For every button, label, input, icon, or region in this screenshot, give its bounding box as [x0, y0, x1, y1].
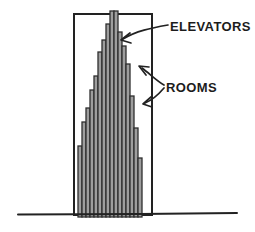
elevators-label: ELEVATORS	[170, 19, 251, 34]
rooms-label: ROOMS	[166, 80, 217, 95]
figure-svg: ELEVATORS ROOMS	[0, 0, 255, 232]
elevator-bar	[138, 158, 142, 217]
sketch-canvas: ELEVATORS ROOMS	[0, 0, 255, 232]
ground-line	[18, 213, 237, 215]
